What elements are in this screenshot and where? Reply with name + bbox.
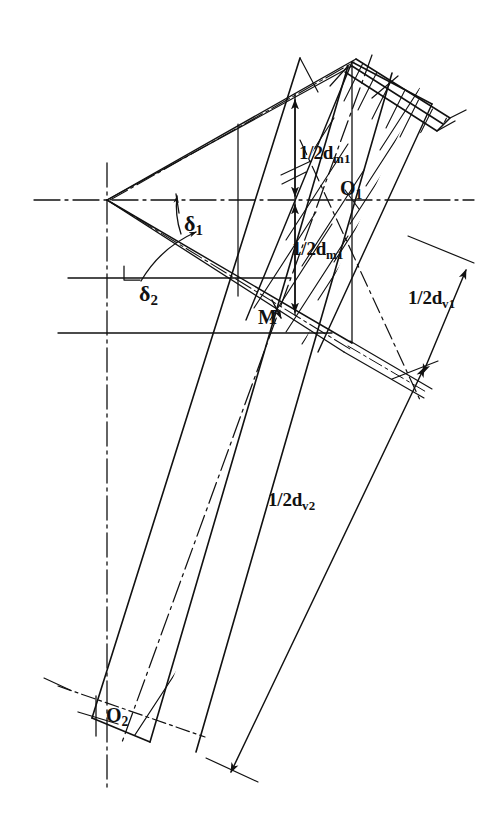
construction-line-lower-left xyxy=(44,678,70,690)
angle-label-delta1: δ1 xyxy=(184,213,203,238)
dimension-half-dv2: 1/2dv2 xyxy=(268,490,315,513)
point-label-M: M xyxy=(258,307,277,327)
dimension-half-dv1: 1/2dv1 xyxy=(408,288,455,311)
dimension-line-dv1 xyxy=(423,270,466,373)
cone-generatrix-upper-pitch xyxy=(110,62,354,200)
cone-generatrix-lower-outer xyxy=(107,200,352,343)
point-label-O1: O1 xyxy=(340,178,363,201)
point-label-O2: O2 xyxy=(106,705,129,728)
big-band-hatching xyxy=(44,0,368,770)
dimension-half-dm1-upper: 1/2dm1 xyxy=(299,143,351,166)
extension-line-dv2-bottom xyxy=(206,758,258,782)
angle-label-delta2: δ2 xyxy=(139,283,158,308)
dimension-line-dv2 xyxy=(231,368,424,772)
diagram-canvas: 1/2dm1 1/2dm1 1/2dv1 1/2dv2 O1 O2 M δ1 δ… xyxy=(0,0,503,822)
cone-generatrix-upper-outer xyxy=(107,59,356,200)
dimension-half-dm1-lower: 1/2dm1 xyxy=(292,239,344,262)
upper-band-outline xyxy=(345,59,450,131)
centerline-O2-oblique xyxy=(58,686,205,737)
extension-line-dv1-top xyxy=(408,236,474,263)
diagram-linework xyxy=(0,0,503,822)
